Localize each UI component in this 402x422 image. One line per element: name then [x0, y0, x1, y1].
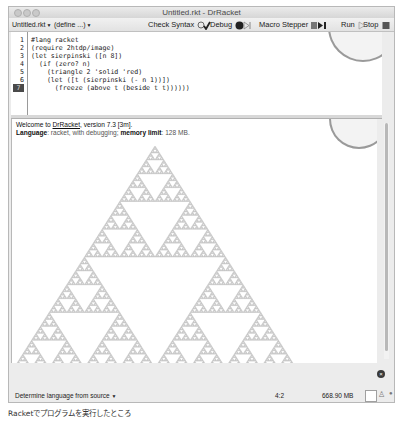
chevron-down-icon: ▼	[46, 22, 51, 28]
racket-logo-watermark	[328, 32, 382, 62]
code-line[interactable]: (let sierpinski ([n 8])	[31, 52, 122, 60]
drracket-window: Untitled.rkt - DrRacket Untitled.rkt▼ (d…	[8, 6, 395, 403]
stop-square-icon	[382, 21, 390, 30]
figure-caption: Racketでプログラムを実行したところ	[8, 407, 131, 418]
running-figure-icon: ♙	[378, 390, 385, 399]
line-number: 4	[11, 60, 24, 68]
file-menu-label: Untitled.rkt	[12, 21, 45, 28]
cursor-position: 4:2	[275, 392, 284, 399]
toolbar: Untitled.rkt▼ (define ...)▼ Check Syntax…	[9, 18, 394, 32]
current-line-number: 7	[13, 84, 24, 92]
line-number: 5	[11, 68, 24, 76]
interactions-scrollbar[interactable]	[384, 123, 389, 359]
line-number: 3	[11, 52, 24, 60]
code-line[interactable]: #lang racket	[31, 36, 79, 44]
code-line[interactable]: (freeze (above t (beside t t))))))	[31, 84, 190, 92]
run-label: Run	[341, 20, 355, 29]
memory-usage[interactable]: 668.90 MB	[322, 392, 353, 399]
language-selector-label: Determine language from source	[15, 392, 110, 399]
line-number: 6	[11, 76, 24, 84]
status-dot-icon: ●	[389, 390, 393, 396]
debug-bug-icon	[235, 21, 251, 30]
line-number: 1	[11, 36, 24, 44]
code-line[interactable]: (triangle 2 'solid 'red)	[31, 68, 142, 76]
window-title: Untitled.rkt - DrRacket	[9, 7, 394, 18]
status-bar: Determine language from source ▼ 4:2 668…	[9, 387, 394, 404]
stop-button[interactable]: Stop	[363, 18, 390, 31]
macro-stepper-label: Macro Stepper	[259, 20, 308, 29]
stop-label: Stop	[363, 20, 378, 29]
code-line[interactable]: (if (zero? n)	[31, 60, 91, 68]
definitions-editor[interactable]: 1 #lang racket 2 (require 2htdp/image) 3…	[11, 32, 382, 116]
language-selector[interactable]: Determine language from source ▼	[15, 392, 116, 399]
line-number: 2	[11, 44, 24, 52]
close-pane-icon[interactable]: ×	[377, 370, 385, 378]
macro-stepper-icon	[311, 21, 327, 30]
code-line[interactable]: (require 2htdp/image)	[31, 44, 114, 52]
chevron-down-icon: ▼	[87, 22, 92, 28]
memory-gc-box	[365, 390, 377, 402]
debug-label: Debug	[210, 20, 232, 29]
check-syntax-button[interactable]: Check Syntax	[148, 18, 211, 31]
define-menu[interactable]: (define ...)▼	[54, 18, 91, 32]
macro-stepper-button[interactable]: Macro Stepper	[259, 18, 327, 31]
code-line[interactable]: (let ([t (sierpinski (- n 1))])	[31, 76, 170, 84]
check-syntax-label: Check Syntax	[148, 20, 194, 29]
sierpinski-triangle-output	[12, 119, 377, 363]
file-menu[interactable]: Untitled.rkt▼	[12, 18, 51, 32]
debug-button[interactable]: Debug	[210, 18, 251, 31]
scrollbar-thumb[interactable]	[385, 123, 388, 351]
interactions-pane[interactable]: Welcome to DrRacket, version 7.3 [3m]. L…	[11, 119, 377, 363]
chevron-down-icon: ▼	[111, 393, 116, 399]
define-menu-label: (define ...)	[54, 21, 86, 28]
